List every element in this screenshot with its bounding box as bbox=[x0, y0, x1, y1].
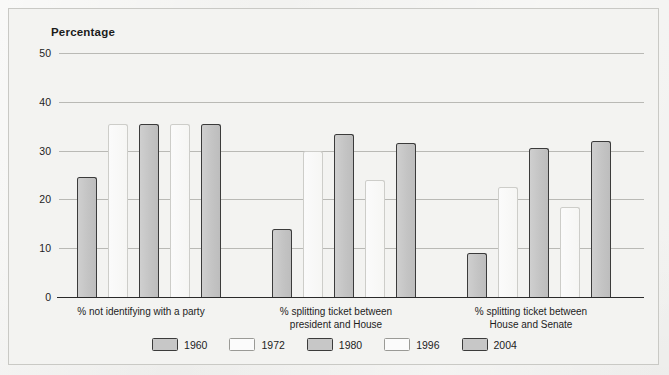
legend: 19601972198019962004 bbox=[0, 338, 669, 351]
category-label-2: % splitting ticket betweenpresident and … bbox=[236, 305, 436, 331]
y-axis-tick-label: 50 bbox=[39, 47, 51, 59]
legend-swatch-icon bbox=[462, 338, 488, 351]
bar-1972-group3 bbox=[498, 187, 518, 297]
legend-swatch-icon bbox=[152, 338, 178, 351]
legend-label: 1972 bbox=[261, 339, 284, 351]
legend-swatch-icon bbox=[229, 338, 255, 351]
plot-area: 01020304050 bbox=[59, 53, 644, 297]
bar-1980-group2 bbox=[334, 134, 354, 297]
bar-1960-group3 bbox=[467, 253, 487, 297]
bar-2004-group3 bbox=[591, 141, 611, 297]
legend-item-1996[interactable]: 1996 bbox=[384, 338, 439, 351]
category-label-line: % not identifying with a party bbox=[41, 305, 241, 318]
bar-1960-group2 bbox=[272, 229, 292, 297]
category-label-line: % splitting ticket between bbox=[236, 305, 436, 318]
bar-1972-group1 bbox=[108, 124, 128, 297]
bar-1980-group3 bbox=[529, 148, 549, 297]
legend-swatch-icon bbox=[384, 338, 410, 351]
legend-swatch-icon bbox=[307, 338, 333, 351]
bar-1972-group2 bbox=[303, 151, 323, 297]
bar-1996-group2 bbox=[365, 180, 385, 297]
legend-item-2004[interactable]: 2004 bbox=[462, 338, 517, 351]
bar-1960-group1 bbox=[77, 177, 97, 297]
category-label-1: % not identifying with a party bbox=[41, 305, 241, 318]
legend-label: 2004 bbox=[494, 339, 517, 351]
figure: Percentage 01020304050 % not identifying… bbox=[0, 0, 669, 375]
y-axis-tick-label: 40 bbox=[39, 96, 51, 108]
chart-frame: Percentage 01020304050 % not identifying… bbox=[8, 8, 659, 365]
bar-2004-group2 bbox=[396, 143, 416, 297]
legend-label: 1980 bbox=[339, 339, 362, 351]
bar-1996-group3 bbox=[560, 207, 580, 297]
category-label-line: president and House bbox=[236, 318, 436, 331]
bar-1996-group1 bbox=[170, 124, 190, 297]
category-label-line: % splitting ticket between bbox=[431, 305, 631, 318]
chart-title: Percentage bbox=[51, 26, 115, 38]
bars-layer bbox=[59, 53, 644, 297]
bar-2004-group1 bbox=[201, 124, 221, 297]
legend-label: 1960 bbox=[184, 339, 207, 351]
category-label-line: House and Senate bbox=[431, 318, 631, 331]
bar-1980-group1 bbox=[139, 124, 159, 297]
y-axis-tick-label: 0 bbox=[45, 291, 51, 303]
y-axis-tick-label: 10 bbox=[39, 242, 51, 254]
axis-baseline bbox=[57, 297, 644, 298]
category-label-3: % splitting ticket betweenHouse and Sena… bbox=[431, 305, 631, 331]
legend-item-1972[interactable]: 1972 bbox=[229, 338, 284, 351]
legend-item-1980[interactable]: 1980 bbox=[307, 338, 362, 351]
y-axis-tick-label: 30 bbox=[39, 145, 51, 157]
legend-item-1960[interactable]: 1960 bbox=[152, 338, 207, 351]
y-axis-tick-label: 20 bbox=[39, 193, 51, 205]
legend-label: 1996 bbox=[416, 339, 439, 351]
